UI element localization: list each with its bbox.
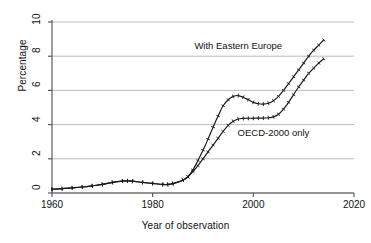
x-tick-label-2000: 2000 xyxy=(233,199,273,210)
x-tick-label-2020: 2020 xyxy=(334,199,371,210)
x-tick-label-1980: 1980 xyxy=(133,199,173,210)
data-point-marker xyxy=(172,182,173,186)
y-tick-label-4: 4 xyxy=(31,116,42,132)
data-point-marker xyxy=(238,117,239,121)
y-tick-label-0: 0 xyxy=(31,185,42,201)
x-axis-label: Year of observation xyxy=(0,220,371,231)
data-point-marker xyxy=(92,184,93,188)
series-line-0 xyxy=(52,40,324,189)
data-point-marker xyxy=(268,101,269,105)
annotation-0: With Eastern Europe xyxy=(194,40,282,51)
data-point-marker xyxy=(258,102,259,106)
y-axis-label: Percentage xyxy=(17,11,28,121)
data-series-group xyxy=(52,39,325,192)
data-point-marker xyxy=(273,115,274,119)
y-tick-label-6: 6 xyxy=(31,82,42,98)
chart-container: Percentage Year of observation 196019802… xyxy=(0,0,371,243)
data-point-marker xyxy=(112,180,113,184)
annotation-1: OECD-2000 only xyxy=(238,127,310,138)
data-point-marker xyxy=(102,182,103,186)
series-line-1 xyxy=(52,59,324,189)
y-tick-label-8: 8 xyxy=(31,48,42,64)
x-tick-label-1960: 1960 xyxy=(32,199,72,210)
y-tick-label-2: 2 xyxy=(31,150,42,166)
y-tick-label-10: 10 xyxy=(31,14,42,30)
